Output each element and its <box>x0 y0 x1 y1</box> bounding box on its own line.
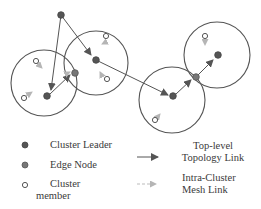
cluster-member-node <box>152 117 157 122</box>
legend-topology-link-label-2: Topology Link <box>168 152 258 164</box>
mesh-link <box>26 92 32 96</box>
legend-cluster-leader-label: Cluster Leader <box>50 139 112 151</box>
legend-mesh-link-label-1: Intra-Cluster <box>182 172 236 184</box>
legend-cluster-member-label-2: member <box>36 190 70 202</box>
legend-edge-node-label: Edge Node <box>50 159 97 171</box>
cluster-member-node <box>21 95 26 100</box>
cluster-leader-node <box>170 93 177 100</box>
topology-link-root-leader1 <box>51 15 61 90</box>
mesh-link <box>102 42 106 44</box>
mesh-link <box>37 63 42 68</box>
topology-link-edge3-leader4 <box>198 60 213 75</box>
mesh-link <box>66 72 70 74</box>
legend-cluster-member-icon <box>22 182 27 187</box>
edge-node <box>193 74 200 81</box>
legend-mesh-link-label-2: Mesh Link <box>182 184 228 196</box>
topology-link-root-leader2 <box>61 15 91 55</box>
cluster-member-node <box>202 33 207 38</box>
mesh-link <box>100 72 102 76</box>
cluster-member-node <box>104 76 109 81</box>
legend-topology-link-label-1: Top-level <box>168 140 258 152</box>
cluster-leader-node <box>44 93 51 100</box>
topology-link-leader3-edge3 <box>176 80 191 94</box>
edge-node <box>72 70 79 77</box>
cluster-member-node <box>103 33 108 38</box>
root-cluster-leader-node <box>58 12 65 19</box>
cluster-member-node <box>33 58 38 63</box>
cluster-leader-node <box>93 57 100 64</box>
legend-cluster-leader-icon <box>22 142 28 148</box>
cluster-boundary-1 <box>11 50 77 116</box>
cluster-leader-node <box>215 52 222 59</box>
legend-cluster-member-label-1: Cluster <box>50 178 80 190</box>
legend-edge-node-icon <box>22 162 28 168</box>
